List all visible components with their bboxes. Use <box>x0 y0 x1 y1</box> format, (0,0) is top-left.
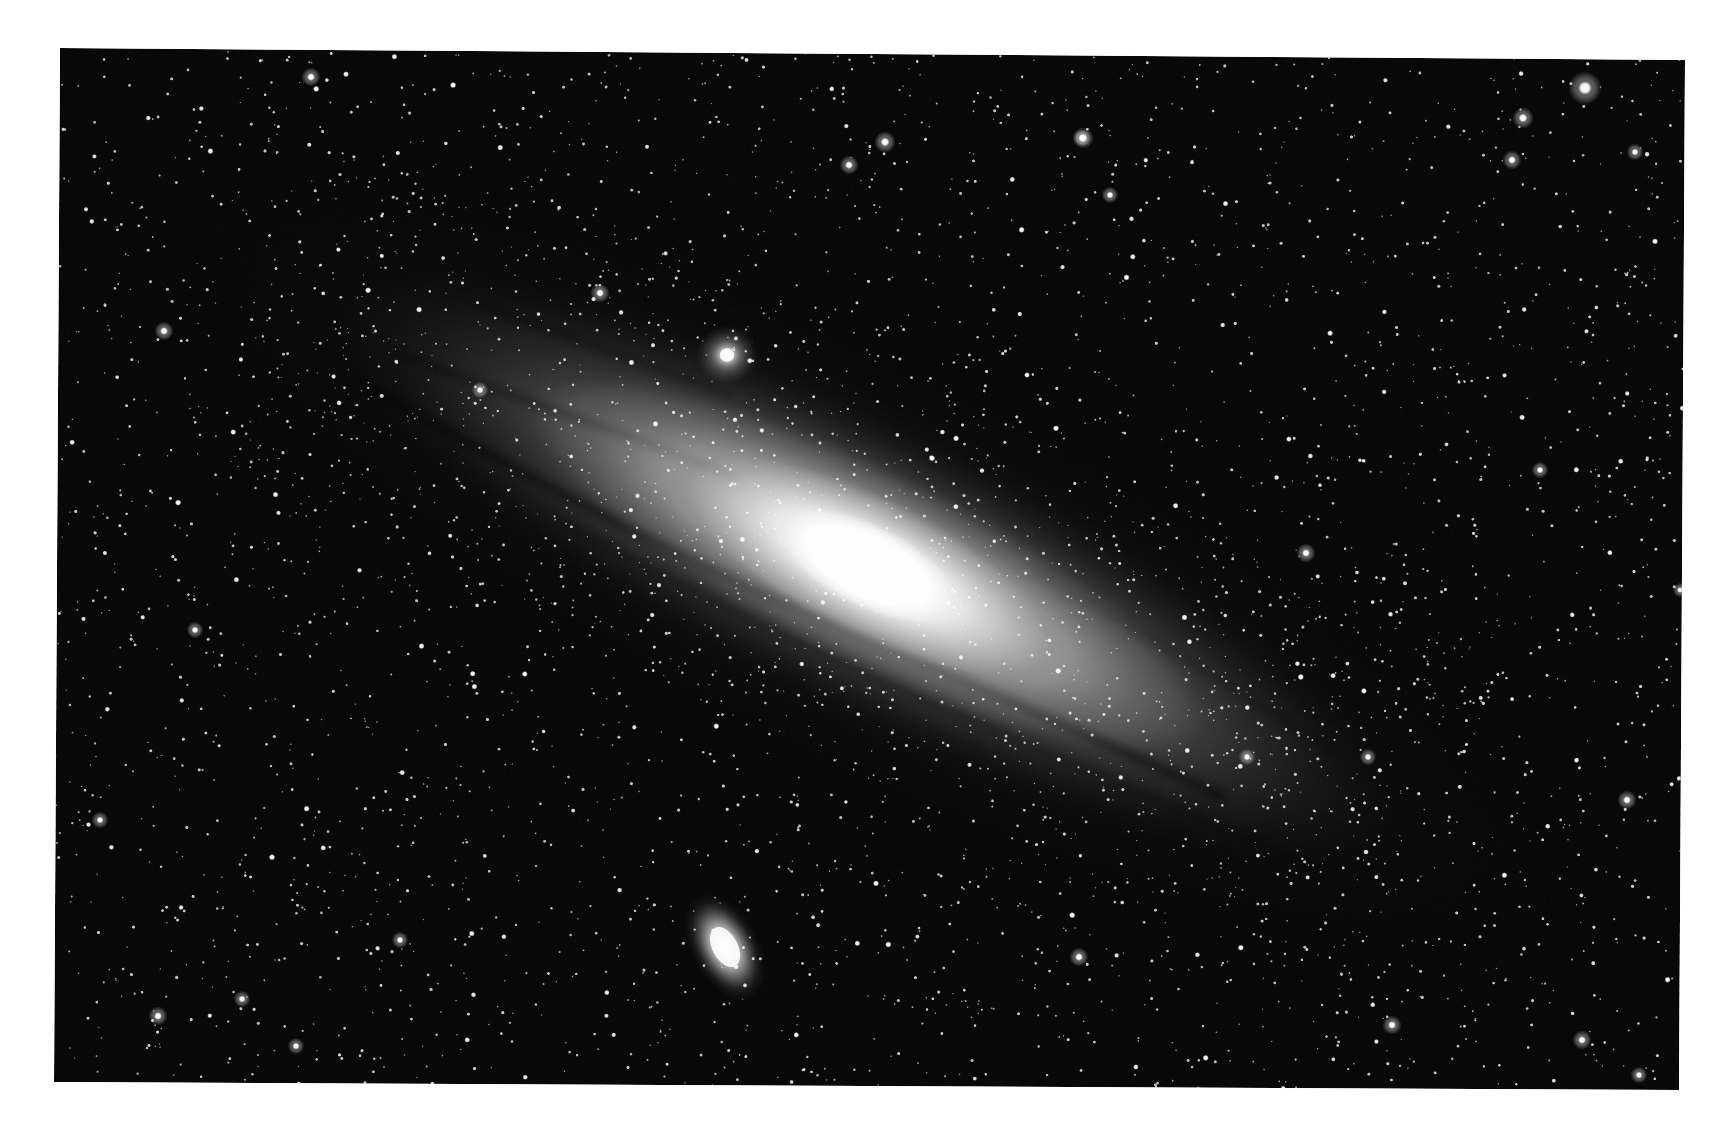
film-grain <box>0 0 1727 1135</box>
photo-frame <box>0 0 1727 1135</box>
andromeda-galaxy-photo <box>0 0 1727 1135</box>
